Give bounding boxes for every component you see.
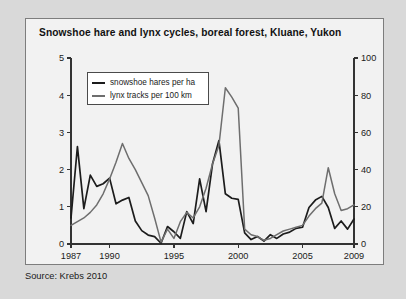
svg-text:0: 0 [361,239,366,249]
svg-text:2: 2 [59,165,64,175]
svg-text:5: 5 [59,53,64,63]
svg-text:2005: 2005 [292,251,312,261]
legend-item-lynx: lynx tracks per 100 km [92,89,204,102]
svg-text:1987: 1987 [61,251,81,261]
svg-text:100: 100 [361,53,376,63]
svg-text:1995: 1995 [164,251,184,261]
svg-text:2009: 2009 [344,251,364,261]
svg-text:4: 4 [59,91,64,101]
svg-text:1990: 1990 [99,251,119,261]
svg-text:1: 1 [59,202,64,212]
svg-text:3: 3 [59,128,64,138]
chart-legend: snowshoe hares per ha lynx tracks per 10… [87,72,209,105]
legend-swatch-hares-icon [92,82,105,84]
series-line-hares [71,141,354,244]
svg-text:60: 60 [361,128,371,138]
source-note: Source: Krebs 2010 [25,271,107,281]
svg-text:20: 20 [361,202,371,212]
legend-item-hares: snowshoe hares per ha [92,76,204,89]
legend-label-lynx: lynx tracks per 100 km [110,91,192,100]
figure-container: Snowshoe hare and lynx cycles, boreal fo… [0,0,406,299]
legend-label-hares: snowshoe hares per ha [110,78,195,87]
chart-panel: Snowshoe hare and lynx cycles, boreal fo… [25,18,384,265]
svg-text:40: 40 [361,165,371,175]
chart-series [71,88,354,244]
line-chart-plot: 0123450204060801001987199019952000200520… [26,19,383,264]
svg-text:80: 80 [361,91,371,101]
svg-text:2000: 2000 [228,251,248,261]
series-line-lynx [71,88,354,242]
legend-swatch-lynx-icon [92,95,105,97]
svg-text:0: 0 [59,239,64,249]
